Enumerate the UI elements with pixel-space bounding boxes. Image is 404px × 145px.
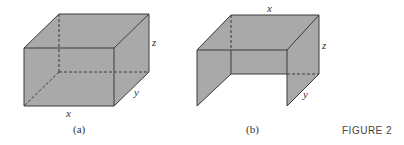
box-b-label-z: z <box>321 39 327 51</box>
box-a-front-face <box>24 48 114 106</box>
box-b: x y z (b) <box>197 2 327 136</box>
box-a-subcaption: (a) <box>73 123 86 136</box>
box-b-label-y: y <box>302 88 308 100</box>
figure-canvas: x y z (a) x y z (b) FIGURE 2 <box>0 0 404 145</box>
figure-caption: FIGURE 2 <box>342 125 392 136</box>
box-b-left-panel <box>197 15 231 106</box>
box-a-label-x: x <box>65 107 71 119</box>
box-b-subcaption: (b) <box>246 123 259 136</box>
box-a-label-z: z <box>151 36 157 48</box>
box-a: x y z (a) <box>24 14 157 136</box>
box-b-label-x: x <box>266 2 272 14</box>
box-a-label-y: y <box>133 86 139 98</box>
